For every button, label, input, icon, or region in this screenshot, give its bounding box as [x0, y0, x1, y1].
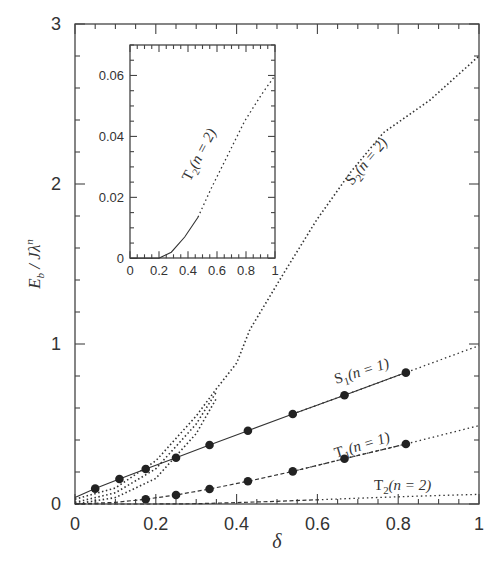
x-tick-label: 0 — [70, 514, 80, 534]
data-point-marker — [244, 477, 253, 486]
x-tick-label: 0 — [126, 263, 133, 278]
y-axis-label: Eb / Jλn — [23, 239, 46, 290]
data-point-marker — [288, 467, 297, 476]
series-label: S2(n = 2) — [342, 134, 393, 189]
svg-text:Eb / Jλn: Eb / Jλn — [23, 239, 46, 290]
series-label: T1(n = 1) — [332, 429, 392, 464]
data-point-marker — [288, 410, 297, 419]
data-point-marker — [141, 465, 150, 474]
x-tick-label: 0.6 — [208, 263, 226, 278]
svg-text:T2(n = 2): T2(n = 2) — [374, 477, 431, 496]
x-tick-label: 0.4 — [224, 514, 249, 534]
series-label: S1(n = 1) — [332, 355, 391, 390]
data-point-marker — [172, 491, 181, 500]
data-point-marker — [91, 484, 100, 493]
data-point-marker — [205, 485, 214, 494]
x-tick-label: 0.8 — [386, 514, 411, 534]
x-tick-label: 0.6 — [305, 514, 330, 534]
svg-text:S2(n = 2): S2(n = 2) — [342, 134, 393, 189]
data-point-marker — [172, 453, 181, 462]
x-tick-label: 0.8 — [237, 263, 255, 278]
x-tick-label: 1 — [474, 514, 484, 534]
x-axis-label: δ — [272, 530, 282, 552]
data-point-marker — [115, 475, 124, 484]
svg-text:S1(n = 1): S1(n = 1) — [332, 355, 391, 390]
y-tick-label: 0.02 — [99, 190, 124, 205]
data-point-marker — [205, 441, 214, 450]
x-tick-label: 1 — [271, 263, 278, 278]
series-line — [75, 373, 406, 498]
data-point-marker — [340, 391, 349, 400]
data-point-marker — [244, 426, 253, 435]
y-tick-label: 0 — [117, 251, 124, 266]
y-tick-label: 0.04 — [99, 129, 124, 144]
data-point-marker — [141, 495, 150, 504]
x-tick-label: 0.4 — [179, 263, 197, 278]
inset-plot: 00.20.40.60.8100.020.040.06 T2(n = 2) — [99, 45, 279, 278]
y-tick-label: 3 — [51, 14, 61, 34]
series-label: T2(n = 2) — [374, 477, 431, 496]
data-point-marker — [402, 440, 411, 449]
svg-text:T1(n = 1): T1(n = 1) — [332, 429, 392, 464]
y-tick-label: 0 — [51, 494, 61, 514]
x-tick-label: 0.2 — [150, 263, 168, 278]
y-tick-label: 1 — [51, 334, 61, 354]
x-tick-label: 0.2 — [143, 514, 168, 534]
chart-figure: 00.20.40.60.810123 S2(n = 2)S1(n = 1)T1(… — [0, 0, 500, 573]
data-point-marker — [402, 368, 411, 377]
y-tick-label: 2 — [51, 174, 61, 194]
y-tick-label: 0.06 — [99, 68, 124, 83]
